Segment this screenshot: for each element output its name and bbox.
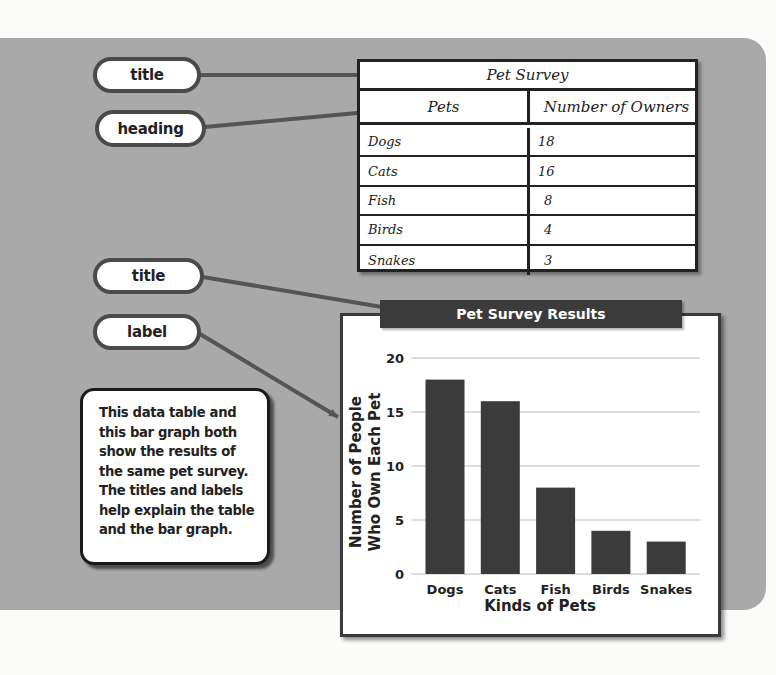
y-tick-label: 5 [395,513,404,528]
x-tick-labels: DogsCatsFishBirdsSnakes [427,582,693,597]
bar-snakes [647,542,686,574]
y-axis-title-line-2: Who Own Each Pet [366,393,384,552]
bars [426,380,686,574]
y-tick-label: 15 [386,405,404,420]
x-axis-title: Kinds of Pets [484,597,596,615]
bar-dogs [426,380,465,574]
chart-title: Pet Survey Results [380,300,682,328]
bar-fish [536,488,575,574]
x-tick-label: Birds [592,582,630,597]
y-tick-label: 0 [395,567,404,582]
bar-birds [591,531,630,574]
info-note: This data table and this bar graph both … [80,388,270,565]
bar-cats [481,401,520,574]
x-tick-label: Fish [540,582,570,597]
x-tick-label: Dogs [427,582,464,597]
info-note-text: This data table and this bar graph both … [99,405,254,537]
y-tick-labels: 05101520 [386,351,404,582]
x-tick-label: Snakes [640,582,693,597]
y-tick-label: 10 [386,459,404,474]
y-axis-title-line-1: Number of People [347,396,365,548]
y-tick-label: 20 [386,351,404,366]
x-tick-label: Cats [484,582,517,597]
bar-chart: 05101520 DogsCatsFishBirdsSnakes Kinds o… [0,0,776,675]
y-axis-title: Number of People Who Own Each Pet [347,393,384,552]
